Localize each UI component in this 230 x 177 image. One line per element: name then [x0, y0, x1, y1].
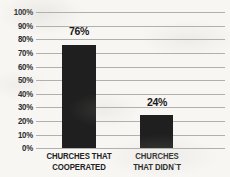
category-label-0: CHURCHES THAT COOPERATED	[41, 152, 117, 173]
bar-churches-that-cooperated	[62, 45, 96, 148]
bar-churches-that-didnt	[140, 115, 173, 148]
y-axis-tick-10: 10%	[3, 130, 33, 140]
gridline-100	[36, 12, 225, 13]
plot-area: 100% 90% 80% 70% 60% 50% 40% 30% 20% 10%…	[0, 0, 230, 177]
bar-value-label-0: 76%	[55, 25, 103, 37]
y-axis-tick-0: 0%	[3, 143, 33, 153]
gridline-0	[36, 148, 225, 149]
y-axis-tick-60: 60%	[3, 62, 33, 72]
category-label-1-line-1: CHURCHES	[119, 152, 195, 163]
y-axis-tick-80: 80%	[3, 34, 33, 44]
y-axis-tick-20: 20%	[3, 116, 33, 126]
y-axis-tick-50: 50%	[3, 75, 33, 85]
category-label-1: CHURCHES THAT DIDN`T	[119, 152, 195, 173]
y-axis-tick-70: 70%	[3, 48, 33, 58]
bar-chart: 100% 90% 80% 70% 60% 50% 40% 30% 20% 10%…	[0, 0, 230, 177]
category-label-0-line-2: COOPERATED	[41, 163, 117, 174]
y-axis-tick-90: 90%	[3, 21, 33, 31]
category-label-0-line-1: CHURCHES THAT	[41, 152, 117, 163]
y-axis-tick-30: 30%	[3, 102, 33, 112]
category-label-1-line-2: THAT DIDN`T	[119, 163, 195, 174]
y-axis-tick-40: 40%	[3, 89, 33, 99]
bar-value-label-1: 24%	[133, 96, 181, 108]
gridline-80	[36, 39, 225, 40]
y-axis-tick-100: 100%	[3, 7, 33, 17]
